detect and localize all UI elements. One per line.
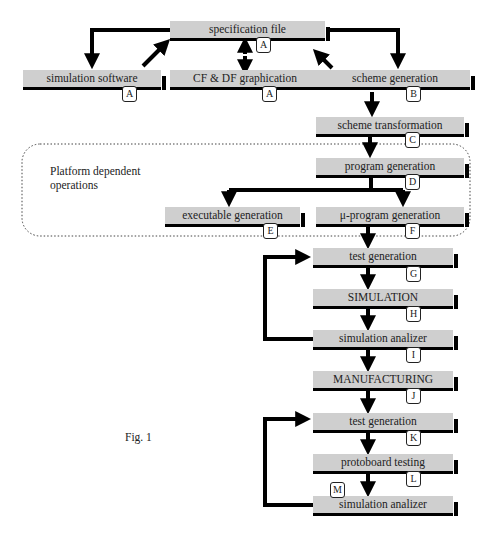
platform-region-label: Platform dependent operations [50, 164, 140, 192]
badge: J [406, 388, 421, 404]
node-label: CF & DF graphication [193, 72, 297, 84]
badge: A [122, 86, 137, 102]
node-label: simulation analizer [339, 498, 427, 510]
badge: L [406, 471, 421, 487]
node-scheme-generation: scheme generation [320, 70, 470, 90]
region-label-line: operations [50, 178, 140, 192]
node-executable-generation: executable generation [165, 207, 300, 227]
node-simulation-analizer-1: simulation analizer [313, 330, 453, 350]
node-label: simulation analizer [339, 332, 427, 344]
node-test-generation-2: test generation [313, 413, 453, 433]
badge: K [406, 430, 421, 446]
region-label-line: Platform dependent [50, 164, 140, 178]
badge: H [406, 306, 421, 322]
node-simulation: SIMULATION [313, 289, 453, 309]
node-cf-df-graphication: CF & DF graphication [170, 70, 320, 90]
node-label: protoboard testing [341, 456, 425, 468]
node-label: SIMULATION [348, 291, 418, 303]
node-scheme-transformation: scheme transformation [316, 117, 464, 137]
node-label: scheme transformation [337, 119, 442, 131]
node-micro-program-generation: μ-program generation [316, 207, 464, 227]
node-label: test generation [349, 415, 416, 427]
badge: M [330, 482, 345, 498]
badge: E [263, 223, 278, 239]
badge: I [406, 347, 421, 363]
node-manufacturing: MANUFACTURING [313, 371, 453, 391]
badge: D [405, 174, 420, 190]
node-specification-file: specification file [170, 21, 325, 41]
node-label: executable generation [182, 209, 283, 221]
node-label: MANUFACTURING [333, 373, 433, 385]
badge: F [405, 223, 420, 239]
node-label: scheme generation [352, 72, 438, 84]
node-program-generation: program generation [316, 158, 464, 178]
node-simulation-software: simulation software [23, 70, 161, 90]
badge: A [262, 86, 277, 102]
node-label: simulation software [46, 72, 137, 84]
badge: B [406, 86, 421, 102]
badge: C [405, 132, 420, 148]
badge: G [406, 266, 421, 282]
node-protoboard-testing: protoboard testing [313, 454, 453, 474]
node-label: program generation [345, 160, 435, 172]
node-label: μ-program generation [340, 209, 440, 221]
badge: A [256, 37, 271, 53]
figure-caption: Fig. 1 [125, 430, 152, 444]
node-label: specification file [209, 23, 286, 35]
node-label: test generation [349, 250, 416, 262]
node-test-generation-1: test generation [313, 248, 453, 268]
node-simulation-analizer-2: simulation analizer [313, 496, 453, 516]
